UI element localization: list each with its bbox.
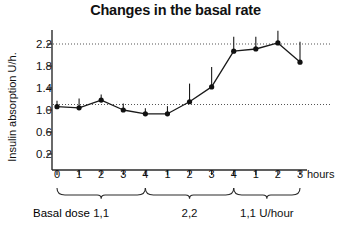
- x-tick-label: 2: [271, 168, 285, 180]
- x-tick-label: 2: [183, 168, 197, 180]
- data-points: [54, 40, 302, 116]
- x-tick-label: 3: [116, 168, 130, 180]
- reference-lines: [53, 44, 330, 105]
- chart-figure: Changes in the basal rate Insulin absorp…: [0, 0, 351, 237]
- x-tick-label: 4: [138, 168, 152, 180]
- x-tick-label: 1: [72, 168, 86, 180]
- x-tick-label: 2: [94, 168, 108, 180]
- x-tick-label: 1: [160, 168, 174, 180]
- x-tick-label: 3: [205, 168, 219, 180]
- x-tick-label: 3: [293, 168, 307, 180]
- x-tick-label: 4: [227, 168, 241, 180]
- dose-brackets: [57, 188, 300, 199]
- x-tick-label: 0: [50, 168, 64, 180]
- dose-segment-label: 1,1 U/hour: [237, 207, 297, 219]
- dose-segment-label: 1,1: [71, 207, 131, 219]
- axis-lines: [52, 30, 307, 170]
- dose-segment-label: 2,2: [160, 207, 220, 219]
- plot-area: [0, 0, 351, 237]
- x-axis-title: hours: [307, 168, 335, 180]
- y-tick-marks: [47, 44, 52, 154]
- error-bars: [57, 31, 300, 114]
- x-tick-label: 1: [249, 168, 263, 180]
- data-line: [57, 43, 300, 114]
